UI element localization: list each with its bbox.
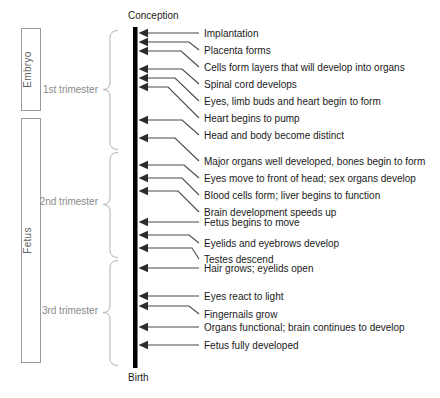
trimester-label-2nd: 2nd trimester bbox=[40, 196, 99, 207]
axis-bottom-label-birth: Birth bbox=[128, 372, 149, 383]
event-label: Organs functional; brain continues to de… bbox=[204, 322, 405, 333]
event-label: Fetus begins to move bbox=[204, 217, 300, 228]
event-label: Hair grows; eyelids open bbox=[204, 263, 314, 274]
prenatal-development-timeline-diagram: Embryo Fetus 1st trimester 2nd trimester… bbox=[0, 0, 440, 398]
event-label: Eyes react to light bbox=[204, 291, 284, 302]
event-label: Blood cells form; liver begins to functi… bbox=[204, 190, 380, 201]
event-label: Placenta forms bbox=[204, 45, 271, 56]
event-label: Head and body become distinct bbox=[204, 130, 344, 141]
event-label: Eyes move to front of head; sex organs d… bbox=[204, 173, 416, 184]
axis-top-label-conception: Conception bbox=[128, 10, 179, 21]
stage-label-embryo: Embryo bbox=[22, 51, 33, 87]
trimester-label-3rd: 3rd trimester bbox=[42, 305, 99, 316]
event-label: Major organs well developed, bones begin… bbox=[204, 156, 425, 167]
event-label: Eyes, limb buds and heart begin to form bbox=[204, 96, 381, 107]
event-label: Heart begins to pump bbox=[204, 113, 300, 124]
trimester-label-1st: 1st trimester bbox=[43, 84, 99, 95]
event-label: Fetus fully developed bbox=[204, 340, 299, 351]
event-label: Eyelids and eyebrows develop bbox=[204, 238, 340, 249]
event-label: Cells form layers that will develop into… bbox=[204, 62, 405, 73]
timeline-axis-bar bbox=[133, 27, 138, 368]
event-label: Fingernails grow bbox=[204, 309, 278, 320]
event-label: Spinal cord develops bbox=[204, 79, 297, 90]
stage-label-fetus: Fetus bbox=[22, 227, 33, 254]
event-label: Implantation bbox=[204, 28, 258, 39]
